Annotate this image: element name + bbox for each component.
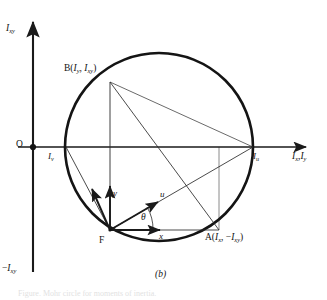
line-F-to-Iv — [66, 147, 110, 230]
theta-arc — [147, 207, 153, 230]
vertical-axis-top-label: Ixy — [6, 24, 15, 34]
point-F-dot — [108, 228, 111, 231]
theta-angle-label: θ — [141, 213, 146, 223]
point-Iu-label: Iu — [253, 152, 259, 162]
chord-A-B — [110, 82, 219, 230]
point-A-label: A(Ix, −Ixy) — [205, 233, 243, 243]
point-Iv-label: Iv — [48, 152, 54, 162]
line-B-to-Iu — [110, 82, 253, 147]
page-bottom-text-fragment: Figure. Mohr circle for moments of inert… — [18, 289, 308, 298]
origin-label: O — [16, 140, 23, 150]
vector-x-label: x — [159, 232, 163, 241]
origin-dot — [30, 144, 36, 150]
vertical-axis-bottom-label: −Ixy — [2, 264, 16, 274]
vector-v-label: v — [92, 190, 96, 199]
vector-y-label: y — [113, 189, 117, 198]
horizontal-axis-label: Ix,Iy — [292, 152, 306, 162]
mohr-circle-drawing — [0, 0, 327, 300]
vector-u-label: u — [160, 190, 165, 199]
figure-caption: (b) — [155, 270, 166, 280]
point-B-label: B(Iy, Ixy) — [64, 64, 96, 74]
point-F-label: F — [99, 236, 104, 246]
figure-root: Ixy −Ixy Ix,Iy O B(Iy, Ixy) A(Ix, −Ixy) … — [0, 0, 327, 300]
